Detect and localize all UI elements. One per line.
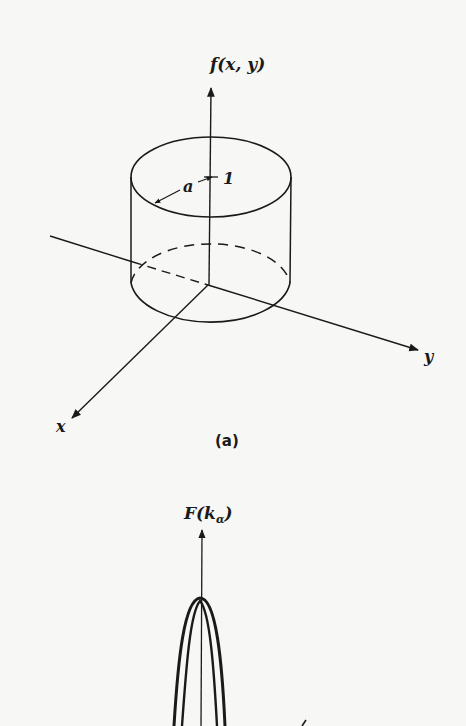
diagram-canvas: f(x, y) y x a 1 (a) F(kα) [0, 0, 466, 726]
k-axis-stub [302, 720, 306, 726]
F-axis [201, 530, 202, 726]
y-axis [208, 285, 418, 350]
y-axis-label: y [423, 347, 435, 366]
function-label-F: F(kα) [183, 503, 232, 526]
figure-a-caption: (a) [215, 432, 239, 450]
radius-label: a [183, 177, 193, 196]
y-axis-back-left [50, 236, 133, 262]
radius-arrow-outer [155, 190, 180, 203]
height-label: 1 [223, 169, 234, 188]
peak-curve-outer [174, 598, 225, 726]
x-axis [72, 285, 208, 418]
cylinder-right-side [290, 177, 291, 283]
function-label-f: f(x, y) [209, 54, 265, 74]
figure-a-cylinder: f(x, y) y x a 1 (a) [50, 54, 435, 450]
f-axis [209, 88, 211, 285]
figure-b-transform: F(kα) [174, 503, 306, 726]
y-axis-hidden-segment [133, 262, 208, 285]
x-axis-label: x [55, 417, 66, 436]
cylinder-bottom-back-arc [131, 244, 290, 283]
